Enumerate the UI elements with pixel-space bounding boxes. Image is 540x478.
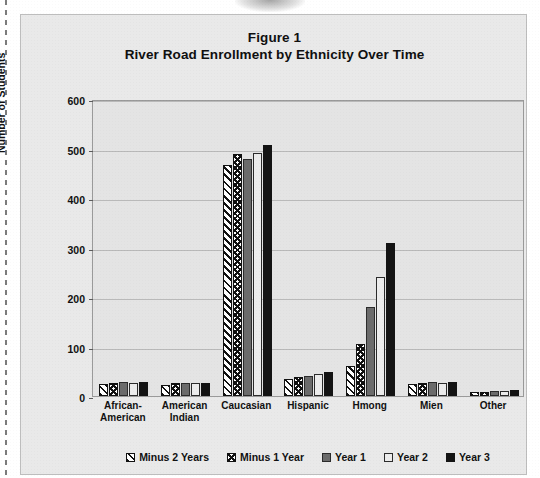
legend-swatch-icon — [126, 453, 135, 462]
figure-page: { "figure": { "title": "Figure 1", "subt… — [0, 0, 540, 478]
bar — [129, 383, 138, 396]
legend-item: Year 1 — [322, 451, 366, 463]
y-tick-label: 600 — [51, 95, 85, 107]
bar-group — [463, 101, 525, 396]
bar — [223, 165, 232, 396]
bar — [314, 374, 323, 396]
bar — [510, 390, 519, 396]
bar-group — [216, 101, 278, 396]
legend-swatch-icon — [322, 453, 331, 462]
y-tick-label: 100 — [51, 343, 85, 355]
bar — [181, 383, 190, 396]
x-axis-label: Hmong — [339, 400, 401, 412]
bar — [99, 384, 108, 396]
plot-area: 0100200300400500600 — [92, 100, 524, 397]
bar — [171, 383, 180, 396]
figure-container: Figure 1 River Road Enrollment by Ethnic… — [20, 14, 527, 475]
y-axis-title: Number of Students — [0, 53, 7, 153]
chart-legend: Minus 2 YearsMinus 1 YearYear 1Year 2Yea… — [92, 448, 524, 466]
bar — [366, 307, 375, 396]
bar — [324, 372, 333, 396]
legend-label: Year 1 — [335, 451, 366, 463]
bar — [356, 344, 365, 396]
legend-item: Year 2 — [384, 451, 428, 463]
legend-item: Minus 2 Years — [126, 451, 209, 463]
bar — [490, 391, 499, 396]
legend-item: Year 3 — [446, 451, 490, 463]
legend-label: Year 3 — [459, 451, 490, 463]
x-axis-label: Caucasian — [215, 400, 277, 412]
bar — [470, 392, 479, 396]
figure-title-block: Figure 1 River Road Enrollment by Ethnic… — [21, 29, 528, 63]
legend-label: Year 2 — [397, 451, 428, 463]
bar — [161, 385, 170, 396]
figure-subtitle: River Road Enrollment by Ethnicity Over … — [21, 46, 528, 63]
bar — [438, 383, 447, 396]
bar — [243, 159, 252, 396]
bar-group — [155, 101, 217, 396]
bar — [500, 391, 509, 396]
legend-swatch-icon — [446, 453, 455, 462]
x-axis-label: Mien — [401, 400, 463, 412]
bar — [233, 154, 242, 396]
bar-group — [278, 101, 340, 396]
bar — [294, 377, 303, 396]
bar — [346, 366, 355, 396]
legend-label: Minus 2 Years — [139, 451, 209, 463]
bar — [201, 383, 210, 396]
bar — [284, 379, 293, 396]
x-axis-label: African-American — [92, 400, 154, 424]
x-axis-label: Other — [462, 400, 524, 412]
bar — [386, 243, 395, 396]
legend-label: Minus 1 Year — [240, 451, 304, 463]
bar-group — [402, 101, 464, 396]
bar — [408, 384, 417, 396]
y-tick-label: 300 — [51, 244, 85, 256]
bar — [109, 383, 118, 396]
bar — [191, 383, 200, 396]
bar — [418, 383, 427, 396]
bar — [480, 392, 489, 396]
x-axis-labels: African-AmericanAmericanIndianCaucasianH… — [92, 400, 524, 434]
figure-title: Figure 1 — [21, 29, 528, 46]
legend-swatch-icon — [227, 453, 236, 462]
legend-swatch-icon — [384, 453, 393, 462]
legend-item: Minus 1 Year — [227, 451, 304, 463]
bar — [253, 153, 262, 396]
bar — [263, 145, 272, 396]
bar-group — [340, 101, 402, 396]
bar — [448, 382, 457, 396]
bar — [119, 382, 128, 396]
bar-group — [93, 101, 155, 396]
bar — [304, 376, 313, 396]
y-tick-label: 0 — [51, 392, 85, 404]
x-axis-label: Hispanic — [277, 400, 339, 412]
bar — [428, 382, 437, 396]
page-artifact — [235, 0, 305, 12]
bar — [376, 277, 385, 396]
bar — [139, 382, 148, 396]
x-axis-label: AmericanIndian — [154, 400, 216, 424]
y-tick-label: 500 — [51, 145, 85, 157]
y-tick-label: 400 — [51, 194, 85, 206]
y-tick-mark — [89, 398, 93, 399]
y-tick-label: 200 — [51, 293, 85, 305]
